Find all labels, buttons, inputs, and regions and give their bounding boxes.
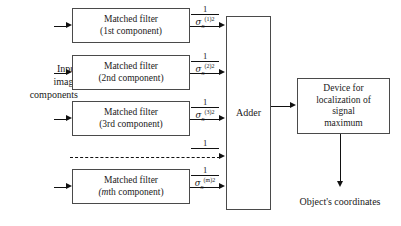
matched-filter-1-line-1: Matched filter — [104, 14, 158, 26]
matched-filter-2-line-2: (2nd component) — [98, 73, 163, 85]
device-line-4: maximum — [324, 118, 363, 130]
device-line-2: localization of — [316, 95, 371, 107]
device-for-localization-box[interactable]: Device for localization of signal maximu… — [297, 78, 390, 134]
adder-box[interactable]: Adder — [226, 16, 271, 210]
input-arrow-line-1 — [54, 26, 66, 27]
matched-filter-3-line-2: (3rd component) — [99, 119, 163, 131]
matched-filter-4-line-2: (mth component) — [98, 187, 163, 199]
adder-to-device-arrow — [290, 102, 296, 108]
adder-to-device-line — [271, 106, 291, 107]
matched-filter-4-line-1: Matched filter — [104, 175, 158, 187]
device-to-output-arrow — [337, 181, 343, 187]
input-label-line-3: components — [0, 88, 78, 101]
device-line-3: signal — [332, 106, 355, 118]
weight-3-denominator: σn(3)2 — [188, 108, 222, 124]
input-arrow-line-4 — [54, 187, 66, 188]
block-diagram: Input image components Matched filter (1… — [0, 0, 401, 226]
weight-4-numerator: 1 — [188, 166, 222, 175]
weight-4-denominator: σn(m)2 — [188, 176, 222, 192]
matched-filter-box-3[interactable]: Matched filter (3rd component) — [72, 101, 190, 136]
input-label-line-2: image — [0, 75, 78, 88]
adder-label: Adder — [236, 107, 261, 119]
weight-ellipsis-fraction-bar — [191, 148, 219, 149]
input-arrow-line-3 — [54, 119, 66, 120]
weight-2-numerator: 1 — [188, 52, 222, 61]
weight-2-denominator: σn(2)2 — [188, 62, 222, 78]
weight-1-denominator: σn(1)2 — [188, 15, 222, 31]
matched-filter-2-line-1: Matched filter — [104, 61, 158, 73]
weight-fraction-3: 1 σn(3)2 — [188, 98, 222, 124]
input-image-components-label: Input image components — [0, 62, 78, 101]
ellipsis-dashed-line — [70, 157, 220, 158]
matched-filter-1-line-2: (1st component) — [100, 26, 162, 38]
weight-fraction-1: 1 σn(1)2 — [188, 5, 222, 31]
weight-fraction-ellipsis: 1 — [188, 139, 222, 149]
matched-filter-box-1[interactable]: Matched filter (1st component) — [72, 8, 190, 43]
input-arrow-line-2 — [54, 73, 66, 74]
weight-1-numerator: 1 — [188, 5, 222, 14]
device-to-output-line — [340, 134, 341, 182]
weight-ellipsis-numerator: 1 — [188, 139, 222, 148]
weight-fraction-2: 1 σn(2)2 — [188, 52, 222, 78]
matched-filter-box-2[interactable]: Matched filter (2nd component) — [72, 55, 190, 90]
ellipsis-arrow-head — [219, 153, 225, 159]
weight-fraction-4: 1 σn(m)2 — [188, 166, 222, 192]
matched-filter-3-line-1: Matched filter — [104, 107, 158, 119]
objects-coordinates-label: Object's coordinates — [280, 196, 400, 207]
matched-filter-box-4[interactable]: Matched filter (mth component) — [72, 169, 190, 204]
weight-3-numerator: 1 — [188, 98, 222, 107]
device-line-1: Device for — [323, 83, 363, 95]
